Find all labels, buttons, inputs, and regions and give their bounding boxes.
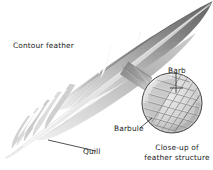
label-barb: Barb xyxy=(168,66,186,75)
caption-line-2: feather structure xyxy=(143,153,211,163)
label-barbule: Barbule xyxy=(114,124,144,133)
caption-line-1: Close-up of xyxy=(143,143,211,153)
feather-anatomy-figure: Contour feather Barb Barbule Quill Close… xyxy=(0,0,213,170)
label-quill: Quill xyxy=(83,147,100,156)
label-contour-feather: Contour feather xyxy=(13,41,74,50)
caption-close-up-of-feather-structure: Close-up of feather structure xyxy=(143,143,211,162)
